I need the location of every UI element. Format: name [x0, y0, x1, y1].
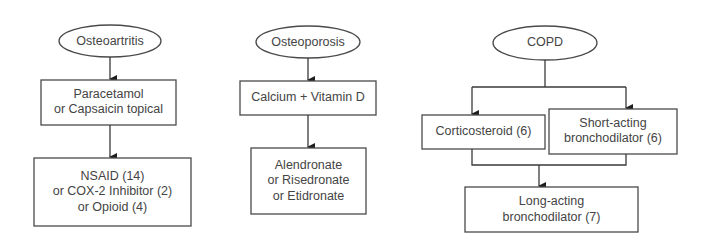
flowchart-canvas: Osteoartritis Paracetamol or Capsaicin t… [0, 0, 713, 241]
merge-line: bronchodilator (7) [503, 210, 601, 224]
start-node-copd: COPD [493, 26, 597, 60]
start-node-osteoporosis: Osteoporosis [256, 26, 360, 58]
step-node-paracetamol: Paracetamol or Capsaicin topical [41, 80, 176, 125]
step-line: Alendronate [275, 158, 342, 172]
flow-copd: COPD Corticosteroid (6) Short-acting bro… [422, 26, 677, 232]
flow-osteoporosis: Osteoporosis Calcium + Vitamin D Alendro… [240, 26, 376, 214]
step-line: or Risedronate [268, 173, 350, 187]
branch-line: bronchodilator (6) [564, 131, 662, 145]
branch-line: Corticosteroid (6) [436, 124, 532, 138]
step-node-bisphosphonate: Alendronate or Risedronate or Etidronate [251, 148, 366, 214]
merge-node-long-acting: Long-acting bronchodilator (7) [465, 187, 638, 232]
step-line: or Etidronate [273, 189, 345, 203]
step-node-nsaid: NSAID (14) or COX-2 Inhibitor (2) or Opi… [34, 158, 191, 226]
step-line: Paracetamol [73, 87, 143, 101]
start-label: Osteoartritis [76, 34, 143, 48]
step-line: NSAID (14) [81, 169, 145, 183]
branch-node-short-acting: Short-acting bronchodilator (6) [549, 109, 677, 154]
start-label: Osteoporosis [271, 35, 345, 49]
step-line: or Capsaicin topical [54, 102, 163, 116]
merge-line: Long-acting [519, 194, 584, 208]
branch-node-corticosteroid: Corticosteroid (6) [422, 115, 545, 149]
step-line: or COX-2 Inhibitor (2) [53, 184, 172, 198]
flow-osteoarthritis: Osteoartritis Paracetamol or Capsaicin t… [34, 25, 191, 226]
start-node-osteoarthritis: Osteoartritis [59, 25, 161, 57]
step-line: Calcium + Vitamin D [251, 90, 364, 104]
step-node-calcium: Calcium + Vitamin D [240, 81, 376, 115]
branch-line: Short-acting [579, 116, 646, 130]
step-line: or Opioid (4) [78, 200, 147, 214]
start-label: COPD [527, 35, 563, 49]
